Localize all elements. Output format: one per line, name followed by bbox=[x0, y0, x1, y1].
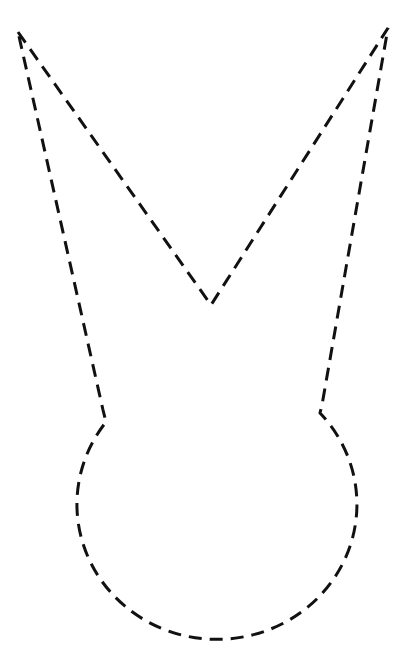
dashed-outline-figure bbox=[0, 0, 403, 667]
